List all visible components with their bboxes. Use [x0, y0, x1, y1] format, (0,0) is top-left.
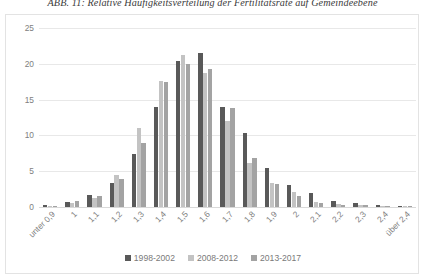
- legend-label: 2013-2017: [260, 253, 301, 263]
- bar-group: [305, 28, 327, 207]
- bar: [287, 185, 291, 207]
- y-axis-tick-label: 10: [25, 130, 34, 140]
- x-axis-tick-label: 1,9: [264, 209, 279, 224]
- bar-group: [372, 28, 394, 207]
- legend-swatch-icon: [188, 255, 194, 261]
- bar: [230, 108, 234, 207]
- bar-group: [349, 28, 371, 207]
- bar: [297, 196, 301, 207]
- bar-group: [216, 28, 238, 207]
- bar: [186, 64, 190, 207]
- bar-group: [106, 28, 128, 207]
- bar: [243, 133, 247, 207]
- y-axis-tick-label: 25: [25, 23, 34, 33]
- bar: [164, 82, 168, 207]
- x-axis-tick-label: 1: [69, 209, 79, 219]
- bar: [208, 69, 212, 207]
- bar-group: [39, 28, 61, 207]
- bar-group: [150, 28, 172, 207]
- bar: [203, 73, 207, 207]
- bar-groups: [39, 28, 416, 207]
- bar-group: [283, 28, 305, 207]
- legend-label: 1998-2002: [134, 253, 175, 263]
- y-axis-tick-label: 20: [25, 59, 34, 69]
- x-axis-ticks: unter 0,911,11,21,31,41,51,61,71,81,922,…: [39, 207, 416, 253]
- y-axis-tick-label: 0: [29, 202, 34, 212]
- bar-group: [61, 28, 83, 207]
- bar: [198, 53, 202, 207]
- plot-area: 0510152025: [39, 28, 416, 207]
- bar: [275, 184, 279, 207]
- bar: [181, 55, 185, 207]
- legend-label: 2008-2012: [197, 253, 238, 263]
- chart-legend: 1998-20022008-20122013-2017: [6, 253, 420, 263]
- bar: [265, 168, 269, 207]
- bar: [137, 128, 141, 207]
- x-axis-tick-label: 1,7: [219, 209, 234, 224]
- bar: [252, 158, 256, 207]
- bar-group: [327, 28, 349, 207]
- bar: [92, 198, 96, 207]
- bar: [114, 175, 118, 207]
- x-axis-tick-label: 2,4: [374, 209, 389, 224]
- bar: [110, 183, 114, 207]
- x-axis-tick-label: 1,4: [153, 209, 168, 224]
- bar-group: [261, 28, 283, 207]
- bar: [247, 163, 251, 207]
- bar: [97, 196, 101, 207]
- x-axis-tick-label: 2: [291, 209, 301, 219]
- x-axis-tick-label: 1,8: [241, 209, 256, 224]
- x-axis-tick-label: unter 0,9: [27, 209, 57, 239]
- bar-group: [172, 28, 194, 207]
- bar: [141, 143, 145, 207]
- bar-group: [239, 28, 261, 207]
- figure-container: ABB. 11: Relative Häufigkeitsverteilung …: [0, 0, 425, 278]
- bar: [292, 192, 296, 207]
- legend-item[interactable]: 2008-2012: [188, 253, 238, 263]
- bar-group: [83, 28, 105, 207]
- x-axis-tick-label: 1,2: [108, 209, 123, 224]
- bar-group: [394, 28, 416, 207]
- legend-item[interactable]: 1998-2002: [125, 253, 175, 263]
- x-axis-tick-label: 2,3: [352, 209, 367, 224]
- chart-frame: 0510152025 unter 0,911,11,21,31,41,51,61…: [5, 14, 419, 274]
- x-axis-tick-label: 1,6: [197, 209, 212, 224]
- bar: [270, 183, 274, 207]
- y-axis-tick-label: 5: [29, 166, 34, 176]
- x-axis-tick-label: 2,1: [308, 209, 323, 224]
- bar-group: [194, 28, 216, 207]
- x-axis-tick-label: 2,2: [330, 209, 345, 224]
- y-axis-tick-label: 15: [25, 95, 34, 105]
- bar: [220, 107, 224, 207]
- legend-item[interactable]: 2013-2017: [251, 253, 301, 263]
- bar: [159, 81, 163, 207]
- bar: [309, 193, 313, 207]
- bar-group: [128, 28, 150, 207]
- bar: [132, 154, 136, 207]
- legend-swatch-icon: [251, 255, 257, 261]
- bar: [119, 179, 123, 207]
- x-axis-tick-label: 1,3: [131, 209, 146, 224]
- bar: [87, 195, 91, 207]
- bar: [225, 121, 229, 207]
- x-axis-tick-label: 1,5: [175, 209, 190, 224]
- x-axis-tick-label: 1,1: [86, 209, 101, 224]
- bar: [176, 61, 180, 207]
- bar: [154, 107, 158, 207]
- legend-swatch-icon: [125, 255, 131, 261]
- figure-caption: ABB. 11: Relative Häufigkeitsverteilung …: [0, 0, 425, 8]
